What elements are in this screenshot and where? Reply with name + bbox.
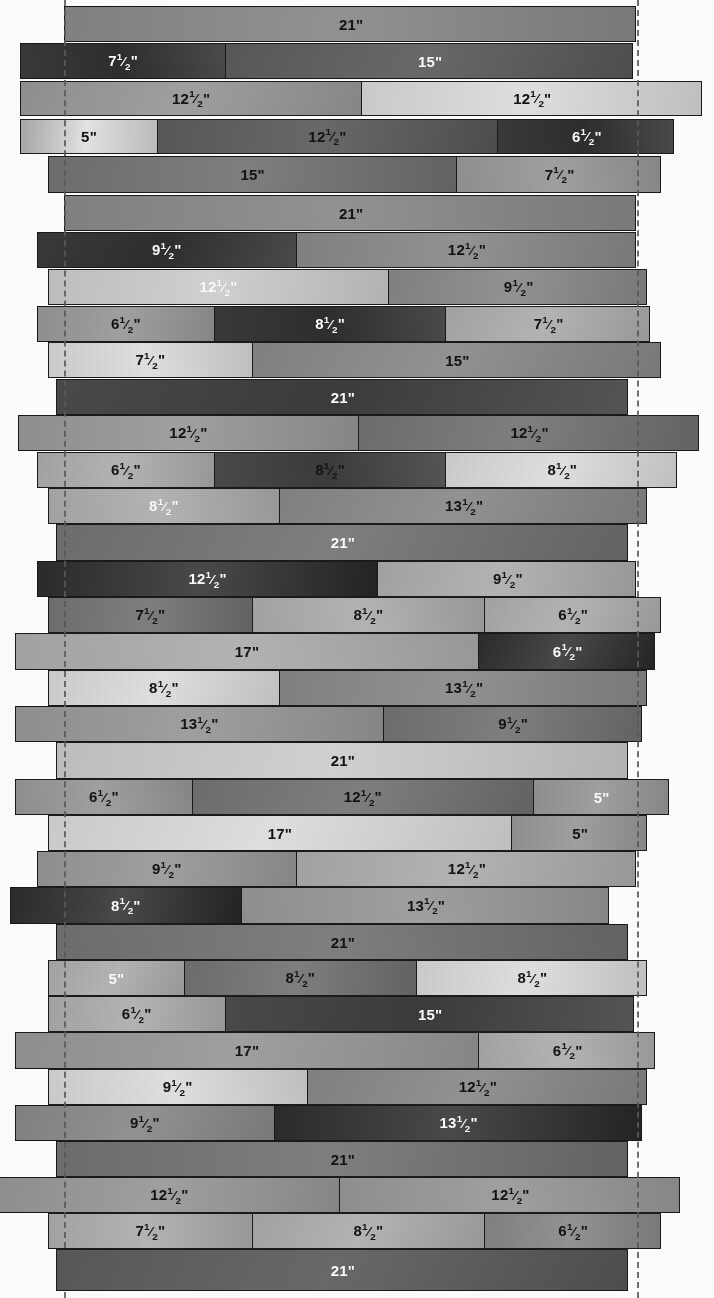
course-segment: 71⁄2" <box>21 44 225 78</box>
segment-measurement-label: 5" <box>594 790 610 805</box>
segment-measurement-label: 61⁄2" <box>89 789 119 805</box>
segment-measurement-label: 21" <box>339 206 363 221</box>
course-segment: 21" <box>57 525 628 560</box>
segment-measurement-label: 71⁄2" <box>136 607 166 623</box>
course-segment: 121⁄2" <box>297 233 637 267</box>
masonry-course: 121⁄2"121⁄2" <box>20 81 701 116</box>
course-segment: 131⁄2" <box>275 1106 642 1140</box>
masonry-course-diagram: 21"71⁄2"15"121⁄2"121⁄2"5"121⁄2"61⁄2"15"7… <box>0 0 714 1298</box>
course-segment: 81⁄2" <box>253 1214 485 1248</box>
masonry-course: 91⁄2"131⁄2" <box>15 1105 642 1141</box>
segment-measurement-label: 121⁄2" <box>199 279 237 295</box>
segment-measurement-label: 121⁄2" <box>150 1187 188 1203</box>
segment-measurement-label: 5" <box>108 971 124 986</box>
segment-measurement-label: 121⁄2" <box>188 571 226 587</box>
course-segment: 15" <box>226 44 634 78</box>
segment-measurement-label: 21" <box>331 753 355 768</box>
segment-measurement-label: 131⁄2" <box>407 898 445 914</box>
course-segment: 71⁄2" <box>49 343 253 377</box>
segment-measurement-label: 121⁄2" <box>510 425 548 441</box>
course-segment: 71⁄2" <box>457 157 660 192</box>
segment-measurement-label: 15" <box>445 353 469 368</box>
course-segment: 121⁄2" <box>49 270 390 304</box>
segment-measurement-label: 81⁄2" <box>315 316 345 332</box>
segment-measurement-label: 81⁄2" <box>354 1223 384 1239</box>
course-segment: 121⁄2" <box>0 1178 340 1212</box>
course-segment: 91⁄2" <box>378 562 636 596</box>
masonry-course: 131⁄2"91⁄2" <box>15 706 642 742</box>
course-segment: 21" <box>65 196 636 230</box>
segment-measurement-label: 121⁄2" <box>448 861 486 877</box>
course-segment: 81⁄2" <box>185 961 417 995</box>
course-segment: 81⁄2" <box>253 598 485 632</box>
course-segment: 15" <box>253 343 661 377</box>
course-segment: 17" <box>16 1033 479 1068</box>
segment-measurement-label: 17" <box>235 644 259 659</box>
segment-measurement-label: 121⁄2" <box>169 425 207 441</box>
course-segment: 61⁄2" <box>38 453 215 487</box>
segment-measurement-label: 91⁄2" <box>130 1115 160 1131</box>
segment-measurement-label: 121⁄2" <box>344 789 382 805</box>
course-segment: 91⁄2" <box>38 852 297 886</box>
segment-measurement-label: 61⁄2" <box>558 607 588 623</box>
segment-measurement-label: 121⁄2" <box>513 91 551 107</box>
masonry-course: 121⁄2"91⁄2" <box>48 269 648 305</box>
course-segment: 91⁄2" <box>38 233 297 267</box>
course-segment: 21" <box>57 743 628 778</box>
segment-measurement-label: 61⁄2" <box>111 316 141 332</box>
course-segment: 17" <box>49 816 512 850</box>
segment-measurement-label: 21" <box>331 1263 355 1278</box>
course-segment: 21" <box>57 925 628 959</box>
course-segment: 121⁄2" <box>38 562 379 596</box>
segment-measurement-label: 61⁄2" <box>572 129 602 145</box>
segment-measurement-label: 121⁄2" <box>172 91 210 107</box>
course-segment: 61⁄2" <box>498 120 674 153</box>
masonry-course: 5"81⁄2"81⁄2" <box>48 960 648 996</box>
masonry-course: 91⁄2"121⁄2" <box>48 1069 648 1105</box>
course-segment: 81⁄2" <box>446 453 677 487</box>
masonry-course: 17"61⁄2" <box>15 633 655 670</box>
masonry-course: 17"61⁄2" <box>15 1032 655 1069</box>
course-segment: 61⁄2" <box>485 1214 661 1248</box>
segment-measurement-label: 91⁄2" <box>152 861 182 877</box>
segment-measurement-label: 21" <box>331 535 355 550</box>
segment-measurement-label: 71⁄2" <box>136 1223 166 1239</box>
masonry-course: 21" <box>64 6 636 42</box>
course-segment: 91⁄2" <box>49 1070 308 1104</box>
masonry-course: 91⁄2"121⁄2" <box>37 851 637 887</box>
course-segment: 61⁄2" <box>485 598 661 632</box>
course-segment: 91⁄2" <box>389 270 647 304</box>
course-segment: 91⁄2" <box>16 1106 275 1140</box>
course-segment: 121⁄2" <box>19 416 360 450</box>
course-segment: 131⁄2" <box>280 671 647 705</box>
segment-measurement-label: 91⁄2" <box>504 279 534 295</box>
segment-measurement-label: 121⁄2" <box>491 1187 529 1203</box>
masonry-course: 61⁄2"15" <box>48 996 634 1032</box>
course-segment: 121⁄2" <box>359 416 699 450</box>
course-segment: 121⁄2" <box>158 120 499 153</box>
segment-measurement-label: 91⁄2" <box>498 716 528 732</box>
course-segment: 121⁄2" <box>340 1178 680 1212</box>
masonry-course: 21" <box>56 379 628 415</box>
course-segment: 61⁄2" <box>38 307 215 341</box>
segment-measurement-label: 15" <box>418 1007 442 1022</box>
segment-measurement-label: 131⁄2" <box>440 1115 478 1131</box>
segment-measurement-label: 15" <box>418 54 442 69</box>
course-segment: 21" <box>57 1250 628 1290</box>
course-segment: 5" <box>49 961 185 995</box>
masonry-course: 21" <box>56 1249 628 1291</box>
course-segment: 61⁄2" <box>16 780 193 814</box>
masonry-course: 21" <box>56 524 628 561</box>
masonry-course: 121⁄2"91⁄2" <box>37 561 637 597</box>
course-segment: 71⁄2" <box>446 307 649 341</box>
course-segment: 61⁄2" <box>49 997 226 1031</box>
segment-measurement-label: 131⁄2" <box>445 680 483 696</box>
segment-measurement-label: 17" <box>268 826 292 841</box>
course-segment: 17" <box>16 634 479 669</box>
segment-measurement-label: 81⁄2" <box>149 498 179 514</box>
segment-measurement-label: 61⁄2" <box>111 462 141 478</box>
segment-measurement-label: 131⁄2" <box>180 716 218 732</box>
masonry-course: 17"5" <box>48 815 648 851</box>
masonry-course: 5"121⁄2"61⁄2" <box>20 119 674 154</box>
course-segment: 71⁄2" <box>49 1214 253 1248</box>
